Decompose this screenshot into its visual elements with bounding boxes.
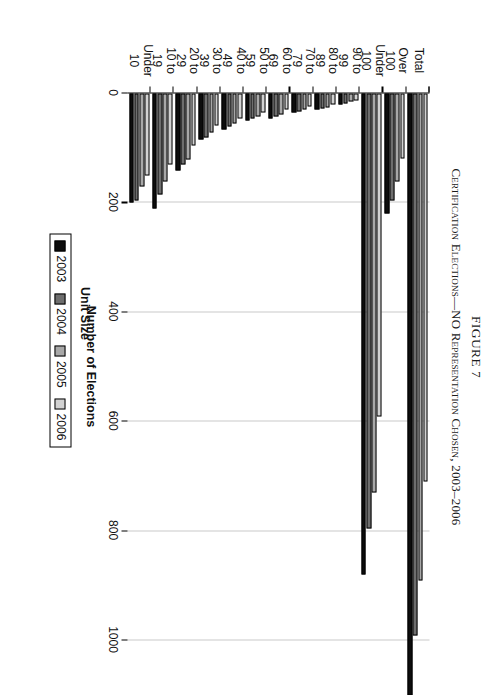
category-tick <box>312 86 313 92</box>
bar-2005-30-to-39 <box>209 93 214 132</box>
bar-2005-50-to-59 <box>255 93 260 116</box>
bar-2003-total <box>407 93 412 695</box>
bar-2006-30-to-39 <box>214 93 219 125</box>
category-tick <box>172 86 173 92</box>
bar-2006-50-to-59 <box>260 93 265 112</box>
bar-2005-10-to-19 <box>162 93 167 181</box>
bar-2003-40-to-49 <box>221 93 226 129</box>
category-label-line2: 79 <box>288 34 302 86</box>
bar-2006-under-10 <box>144 93 149 175</box>
value-tick-label: 1000 <box>105 617 119 661</box>
bar-2005-40-to-49 <box>232 93 237 123</box>
gridline <box>127 530 429 531</box>
bar-2003-50-to-59 <box>245 93 250 120</box>
bar-2003-70-to-79 <box>291 93 296 112</box>
category-label-line2: 100 <box>358 34 372 86</box>
bar-2004-under-10 <box>134 93 139 200</box>
bar-2004-80-to-89 <box>320 93 325 108</box>
category-tick <box>358 86 359 92</box>
category-tick <box>265 86 266 92</box>
category-label-line1: Total <box>411 34 425 86</box>
bar-2005-under-10 <box>139 93 144 186</box>
value-tick <box>121 92 127 93</box>
gridline <box>127 311 429 312</box>
value-tick-label: 200 <box>105 179 119 223</box>
category-tick <box>288 86 289 92</box>
bar-2003-20-to-29 <box>175 93 180 170</box>
category-label: Over100 <box>381 34 408 86</box>
bar-2006-80-to-89 <box>330 93 335 104</box>
bar-chart-plot-area: 02004006008001000 Number of Elections <box>127 92 429 640</box>
legend-title: Unit Size <box>77 233 91 393</box>
bar-2006-40-to-49 <box>237 93 242 118</box>
category-label-line2: 10 <box>126 34 140 86</box>
bar-2003-30-to-39 <box>198 93 203 139</box>
category-tick <box>381 86 382 92</box>
legend-label: 2003 <box>53 255 67 282</box>
value-tick-label: 800 <box>105 508 119 552</box>
legend-swatch-icon <box>55 345 66 356</box>
category-label-line2: 29 <box>172 34 186 86</box>
category-label-line2: 100 <box>381 34 395 86</box>
value-tick <box>121 639 127 640</box>
bar-2003-80-to-89 <box>314 93 319 109</box>
bar-2003-under-10 <box>129 93 134 202</box>
gridline <box>127 639 429 640</box>
category-label-line2: 99 <box>335 34 349 86</box>
bar-2004-70-to-79 <box>296 93 301 111</box>
value-tick <box>121 201 127 202</box>
category-label-line1: Over <box>395 34 409 86</box>
legend-swatch-icon <box>55 293 66 304</box>
legend-item-2003[interactable]: 2003 <box>53 240 67 282</box>
figure-title-block: FIGURE 7 Certification Elections—NO Repr… <box>447 0 483 693</box>
legend-swatch-icon <box>55 240 66 251</box>
category-tick <box>149 86 150 92</box>
category-label-line2: 69 <box>265 34 279 86</box>
legend-label: 2006 <box>53 413 67 440</box>
bar-2005-total <box>418 93 423 580</box>
value-tick <box>121 311 127 312</box>
bar-2004-40-to-49 <box>227 93 232 126</box>
bar-2003-under-100 <box>361 93 366 574</box>
bar-2006-60-to-69 <box>284 93 289 109</box>
category-tick <box>219 86 220 92</box>
bar-2005-under-100 <box>371 93 376 492</box>
value-tick <box>121 420 127 421</box>
value-tick <box>121 530 127 531</box>
legend-label: 2004 <box>53 308 67 335</box>
bar-2003-60-to-69 <box>268 93 273 118</box>
category-label-line2: 39 <box>195 34 209 86</box>
bar-2006-90-to-99 <box>353 93 358 100</box>
category-label-line2: 59 <box>242 34 256 86</box>
bar-2006-70-to-79 <box>307 93 312 106</box>
figure-number: FIGURE 7 <box>467 0 483 693</box>
legend-item-2005[interactable]: 2005 <box>53 345 67 387</box>
category-label-line2: 19 <box>149 34 163 86</box>
bar-2004-30-to-39 <box>203 93 208 137</box>
bar-2005-60-to-69 <box>278 93 283 114</box>
bar-2003-10-to-19 <box>152 93 157 208</box>
legend-item-2004[interactable]: 2004 <box>53 293 67 335</box>
bar-2005-20-to-29 <box>185 93 190 159</box>
bar-2004-90-to-99 <box>343 93 348 103</box>
bar-2005-80-to-89 <box>325 93 330 107</box>
legend: 2003200420052006 <box>49 233 71 447</box>
bar-2006-over-100 <box>400 93 405 158</box>
bar-2004-10-to-19 <box>157 93 162 194</box>
legend-item-2006[interactable]: 2006 <box>53 398 67 440</box>
bar-2004-total <box>413 93 418 635</box>
category-label-line2: 49 <box>219 34 233 86</box>
value-tick-label: 600 <box>105 398 119 442</box>
legend-label: 2005 <box>53 360 67 387</box>
bar-2006-under-100 <box>376 93 381 416</box>
bar-2006-20-to-29 <box>191 93 196 145</box>
bar-2005-70-to-79 <box>302 93 307 109</box>
category-label-line2: 89 <box>311 34 325 86</box>
bar-2005-90-to-99 <box>348 93 353 101</box>
bar-2004-20-to-29 <box>180 93 185 164</box>
bar-2005-over-100 <box>394 93 399 181</box>
value-tick-label: 400 <box>105 289 119 333</box>
bar-2006-10-to-19 <box>167 93 172 164</box>
bar-2004-50-to-59 <box>250 93 255 118</box>
